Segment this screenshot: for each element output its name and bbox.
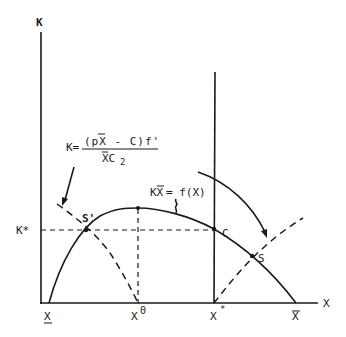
svg-text:2: 2 bbox=[120, 157, 125, 167]
svg-text:X: X bbox=[131, 310, 138, 323]
arrow-to-left-curve bbox=[62, 167, 74, 206]
growth-curve-equation: KX = f(X) bbox=[150, 186, 206, 199]
tick-x-zero: X 0 bbox=[131, 305, 146, 323]
svg-text:XC: XC bbox=[102, 152, 115, 165]
svg-text:K=: K= bbox=[66, 141, 80, 154]
tick-x-star: X * bbox=[210, 304, 225, 323]
tick-k-star: K* bbox=[16, 224, 29, 237]
diagram-canvas: K X S' C S K* X X 0 X * X KX = f(X) bbox=[0, 0, 346, 337]
arrow-to-right-curve bbox=[198, 172, 267, 238]
tick-x-lower: X bbox=[44, 310, 52, 323]
growth-curve-pointer bbox=[175, 199, 177, 213]
svg-text:X: X bbox=[44, 310, 51, 323]
svg-text:X: X bbox=[292, 310, 299, 323]
label-s: S bbox=[258, 252, 265, 265]
svg-text:0: 0 bbox=[140, 305, 146, 316]
point-c bbox=[212, 227, 216, 231]
point-peak bbox=[136, 206, 140, 210]
x-star-line bbox=[214, 72, 215, 303]
x-axis-label: X bbox=[323, 297, 330, 310]
optimal-curve-formula: K= (pX - C)f' XC 2 bbox=[66, 134, 160, 167]
point-s bbox=[250, 254, 254, 258]
y-axis-label: K bbox=[36, 16, 43, 29]
svg-text:(pX - C)f': (pX - C)f' bbox=[84, 135, 160, 148]
svg-text:= f(X): = f(X) bbox=[166, 186, 206, 199]
svg-text:X: X bbox=[210, 310, 217, 323]
svg-text:*: * bbox=[220, 304, 225, 314]
label-c: C bbox=[222, 227, 229, 240]
svg-text:KX: KX bbox=[150, 186, 164, 199]
point-s-prime bbox=[84, 228, 88, 232]
tick-x-bar: X bbox=[292, 310, 300, 323]
label-s-prime: S' bbox=[82, 212, 95, 225]
